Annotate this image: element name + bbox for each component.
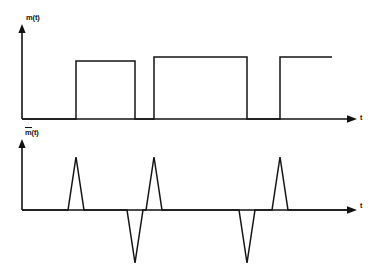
waveform-diagram: [0, 0, 385, 273]
bottom-y-axis-label: m(t): [25, 129, 39, 137]
bottom-y-axis-label-base: m: [25, 128, 32, 137]
figure-root: m(t) m(t) t t: [0, 0, 385, 273]
top-signal-pulse-train: [22, 57, 332, 119]
bottom-y-axis-arrowhead: [18, 139, 25, 148]
top-plot-group: [18, 24, 357, 123]
tilde-bar-glyph: [25, 127, 32, 128]
tilde-over-m: m: [25, 129, 32, 137]
top-x-axis-label: t: [360, 114, 362, 121]
top-y-axis-label: m(t): [26, 14, 40, 22]
bottom-y-axis-label-suffix: (t): [32, 128, 39, 137]
bottom-plot-group: [18, 139, 357, 263]
top-y-axis-arrowhead: [18, 24, 25, 33]
bottom-x-axis-label: t: [360, 202, 362, 209]
top-x-axis-arrowhead: [347, 115, 357, 123]
